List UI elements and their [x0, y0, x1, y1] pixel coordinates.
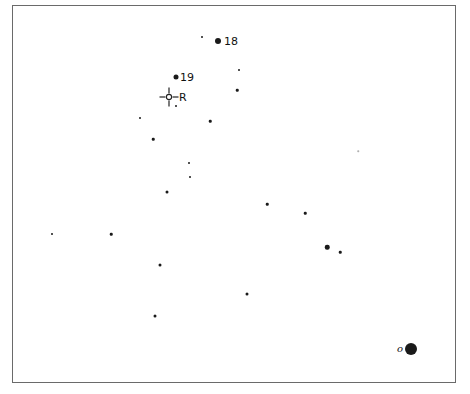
star-dot-icon — [339, 251, 342, 254]
crosshair-reticle-icon — [159, 87, 179, 107]
star-dot-icon — [110, 233, 113, 236]
star-dot-icon — [266, 203, 269, 206]
star-dot-icon — [51, 233, 53, 235]
star-chart-frame — [12, 5, 456, 383]
star-19 — [174, 75, 179, 80]
star-dot-icon — [166, 191, 169, 194]
star-dot-icon — [209, 120, 212, 123]
star-dot-icon — [236, 89, 239, 92]
star-label-19: 19 — [180, 72, 194, 83]
star-dot-icon — [201, 36, 203, 38]
star-dot-icon — [238, 69, 240, 71]
reticle-label: R — [179, 92, 187, 103]
star-dot-icon — [325, 245, 330, 250]
star-dot-icon — [159, 264, 162, 267]
object-label-o: o — [397, 344, 403, 354]
star-18 — [215, 38, 221, 44]
star-dot-icon — [139, 117, 141, 119]
star-o — [405, 343, 417, 355]
star-dot-icon — [188, 162, 190, 164]
star-dot-icon — [246, 293, 249, 296]
star-dot-icon — [154, 315, 157, 318]
star-dot-icon — [357, 150, 359, 152]
star-dot-icon — [152, 138, 155, 141]
star-label-18: 18 — [224, 36, 238, 47]
star-dot-icon — [189, 176, 191, 178]
star-dot-icon — [304, 212, 307, 215]
